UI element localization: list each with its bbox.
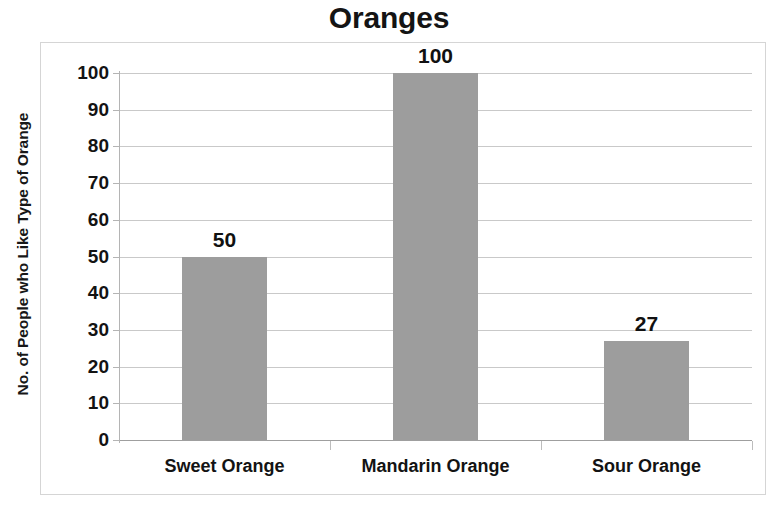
bar-value-label: 50 — [165, 229, 285, 251]
y-axis-tick-label: 60 — [51, 210, 109, 229]
y-axis-tick-label: 10 — [51, 393, 109, 412]
y-axis-tick-label: 80 — [51, 136, 109, 155]
bar-value-label: 100 — [376, 45, 496, 67]
y-axis-tick-label: 0 — [51, 430, 109, 449]
axis-baseline — [119, 440, 752, 441]
y-axis-tick — [113, 367, 120, 368]
y-axis-tick — [113, 73, 120, 74]
category-separator-tick — [752, 441, 753, 450]
y-axis-title: No. of People who Like Type of Orange — [14, 0, 32, 515]
y-axis-tick-label: 30 — [51, 320, 109, 339]
category-label: Mandarin Orange — [330, 455, 541, 477]
bar — [393, 73, 478, 440]
bar-value-label: 27 — [587, 313, 707, 335]
y-axis-tick — [113, 293, 120, 294]
y-axis-tick — [113, 403, 120, 404]
y-axis-tick-label: 20 — [51, 357, 109, 376]
bar-chart: Oranges No. of People who Like Type of O… — [0, 0, 778, 515]
chart-title: Oranges — [0, 1, 778, 35]
y-axis-tick-label: 70 — [51, 173, 109, 192]
y-axis-tick-labels: 1009080706050403020100 — [45, 0, 109, 515]
y-axis-tick-label: 50 — [51, 247, 109, 266]
y-axis-tick — [113, 110, 120, 111]
category-separator-tick — [330, 441, 331, 450]
y-axis-tick — [113, 146, 120, 147]
y-axis-tick-label: 40 — [51, 283, 109, 302]
y-axis-tick — [113, 440, 120, 441]
bar — [604, 341, 689, 440]
category-separator-tick — [541, 441, 542, 450]
y-axis-tick — [113, 330, 120, 331]
category-label: Sour Orange — [541, 455, 752, 477]
category-label: Sweet Orange — [119, 455, 330, 477]
y-axis-tick-label: 90 — [51, 100, 109, 119]
y-axis-tick-label: 100 — [51, 63, 109, 82]
bar — [182, 257, 267, 441]
y-axis-tick — [113, 183, 120, 184]
y-axis-tick — [113, 220, 120, 221]
y-axis-tick — [113, 257, 120, 258]
